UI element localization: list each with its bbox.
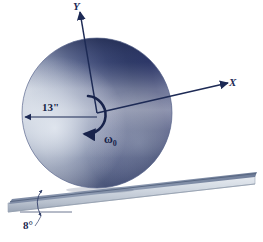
omega-subscript: 0: [113, 139, 117, 148]
disk-incline-diagram: Y X 13" ω0 8°: [0, 0, 263, 242]
omega-symbol: ω: [104, 132, 113, 146]
incline-angle-label: 8°: [23, 219, 33, 231]
radius-label: 13": [42, 101, 59, 113]
angular-velocity-label: ω0: [104, 132, 117, 148]
angle-leader-line: [35, 216, 41, 226]
y-axis-label: Y: [73, 0, 80, 12]
diagram-canvas: [0, 0, 263, 242]
x-axis-label: X: [229, 76, 236, 88]
